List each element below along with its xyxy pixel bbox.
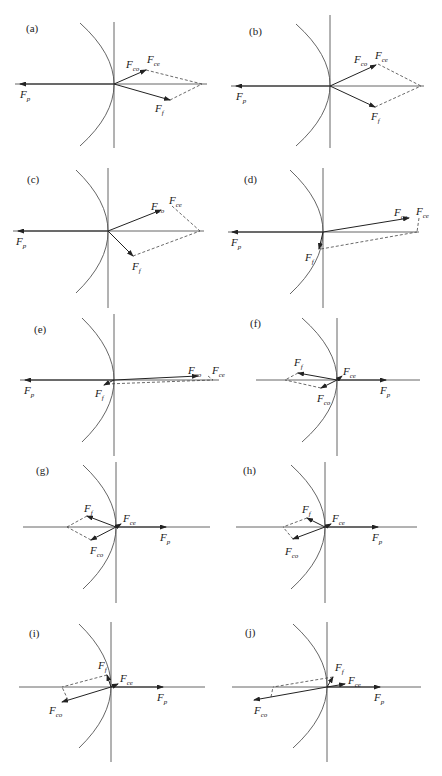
force-label-co: Fco [316,392,331,407]
force-label-f: Ff [131,260,142,275]
force-label-f: Ff [154,102,165,117]
construction-line [378,64,421,86]
construction-line [67,527,91,540]
construction-line [107,380,213,384]
force-label-ce: Fce [146,53,160,68]
vector-f-co-arrow-icon [91,527,116,540]
construction-line [271,687,273,697]
panel-label: (b) [249,25,262,38]
panel-label: (f) [250,317,261,330]
vector-f-f-arrow-icon [327,677,333,687]
construction-line [146,70,202,84]
force-label-f: Ff [370,110,381,125]
panel-i: (i)FfFceFcoFp [19,622,205,762]
force-label-ce: Fce [211,364,225,379]
vector-f-co-arrow-icon [62,687,111,702]
force-label-co: Fco [89,544,104,559]
panel-d: (d)FpFcoFceFf [228,168,429,308]
panel-a: (a)FpFcoFceFf [15,22,207,148]
force-label-co: Fco [284,545,299,560]
force-label-co: Fco [48,704,63,719]
force-label-ce: Fce [342,365,356,380]
force-label-p: Fp [15,235,27,250]
force-label-co: Fco [393,206,408,221]
panel-label: (c) [27,173,40,186]
force-label-f: Ff [301,503,312,518]
construction-line [285,373,298,380]
vector-f-co-arrow-icon [323,218,409,232]
construction-line [67,516,87,527]
construction-line [133,231,200,256]
panel-label: (h) [243,464,256,477]
construction-line [283,518,307,527]
panel-label: (d) [244,173,257,186]
vector-f-co-arrow-icon [108,210,161,231]
vector-f-f-arrow-icon [298,373,337,380]
construction-line [285,380,321,388]
panel-j: (j)FfFceFcoFp [232,622,421,762]
panel-h: (h)FfFceFcoFp [236,462,417,603]
force-label-co: Fco [125,58,140,73]
force-label-p: Fp [159,531,171,546]
vector-f-f-arrow-icon [87,516,116,527]
construction-line [170,84,202,100]
construction-line [321,232,417,249]
vector-f-co-arrow-icon [330,65,376,86]
force-label-p: Fp [230,236,242,251]
construction-line [417,218,419,232]
construction-line [283,527,293,539]
construction-line [62,675,107,687]
panel-label: (e) [34,323,47,336]
vector-f-co-arrow-icon [114,376,198,380]
panel-f: (f)FfFceFcoFp [250,317,420,456]
force-label-f: Ff [293,356,304,371]
force-label-f: Ff [304,251,315,266]
force-label-co: Fco [150,200,165,215]
panel-g: (g)FfFceFcoFp [23,462,210,603]
vector-f-f-arrow-icon [330,86,375,107]
force-diagram-figure: (a)FpFcoFceFf(b)FpFcoFceFf(c)FpFcoFceFf(… [0,0,442,776]
vector-f-co-arrow-icon [321,380,337,388]
force-label-p: Fp [371,531,383,546]
surface-arc [293,624,327,748]
construction-line [375,86,421,107]
panel-label: (g) [36,464,49,477]
force-label-ce: Fce [331,512,345,527]
vector-f-f-arrow-icon [307,518,325,527]
construction-line [62,687,68,700]
vector-f-f-arrow-icon [108,231,133,256]
vector-f-co-arrow-icon [293,527,325,539]
vector-f-co-arrow-icon [254,687,327,700]
panels-container: (a)FpFcoFceFf(b)FpFcoFceFf(c)FpFcoFceFf(… [13,15,429,762]
panel-b: (b)FpFcoFceFf [231,15,424,148]
force-label-p: Fp [156,691,168,706]
construction-line [172,206,200,231]
panel-e: (e)FpFcoFceFf [20,314,225,456]
panel-label: (a) [26,22,39,35]
force-label-f: Ff [94,387,105,402]
vector-f-co-arrow-icon [114,70,146,84]
panel-label: (i) [29,627,40,640]
force-label-p: Fp [379,384,391,399]
force-label-ce: Fce [168,194,182,209]
construction-line [273,677,333,687]
force-label-ce: Fce [119,672,133,687]
vector-f-f-arrow-icon [114,84,170,100]
force-label-p: Fp [373,691,385,706]
force-label-ce: Fce [374,49,388,64]
panel-c: (c)FpFcoFceFf [13,168,204,308]
force-label-p: Fp [19,88,31,103]
force-label-ce: Fce [122,512,136,527]
force-label-f: Ff [83,502,94,517]
panel-label: (j) [245,626,256,639]
surface-arc [79,624,111,748]
surface-arc [296,24,330,146]
force-label-p: Fp [23,384,35,399]
force-label-p: Fp [235,90,247,105]
force-label-co: Fco [353,53,368,68]
vector-f-ce-arrow-icon [337,376,342,380]
force-label-co: Fco [253,704,268,719]
force-label-ce: Fce [415,205,429,220]
force-label-f: Ff [334,661,345,676]
construction-line [208,376,213,380]
